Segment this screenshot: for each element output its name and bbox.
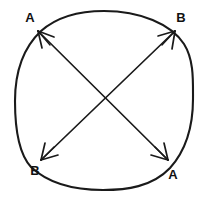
diagram-canvas: A B B A: [0, 0, 207, 199]
circle-arrows-figure: A B B A: [0, 0, 207, 199]
label-bottom-right: A: [168, 167, 178, 182]
label-top-left: A: [25, 10, 35, 25]
label-top-right: B: [176, 10, 185, 25]
label-bottom-left: B: [30, 163, 39, 178]
